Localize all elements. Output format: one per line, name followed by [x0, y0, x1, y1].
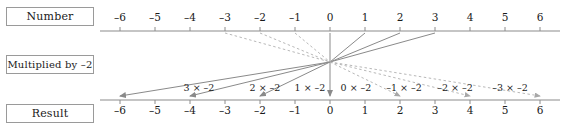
tick-label-bottom--2: –2: [254, 104, 266, 116]
operation-label-1: 2 × –2: [250, 82, 281, 93]
tick-label-top--1: –1: [289, 11, 301, 23]
tick-label-bottom-6: 6: [537, 104, 544, 116]
ray-upper-2: [330, 33, 400, 62]
tick-label-top--2: –2: [254, 11, 266, 23]
number-line-diagram: Number Multiplied by –2 Result –6–5–4–3–…: [0, 0, 566, 131]
ray-upper--2: [260, 33, 330, 62]
operation-label-5: –2 × –2: [437, 82, 473, 93]
ray-upper--3: [225, 33, 330, 62]
tick-label-bottom--6: –6: [114, 104, 126, 116]
diagram-canvas: [0, 0, 566, 131]
tick-label-top-6: 6: [537, 11, 544, 23]
tick-label-bottom--1: –1: [289, 104, 301, 116]
tick-label-top--4: –4: [184, 11, 196, 23]
tick-label-bottom-4: 4: [467, 104, 474, 116]
ray-upper-3: [330, 33, 435, 62]
tick-label-top--3: –3: [219, 11, 231, 23]
tick-label-bottom--3: –3: [219, 104, 231, 116]
tick-label-bottom--5: –5: [149, 104, 161, 116]
operation-label-2: 1 × –2: [295, 82, 326, 93]
tick-label-top--6: –6: [114, 11, 126, 23]
ray-upper--1: [295, 33, 330, 62]
tick-label-bottom-3: 3: [432, 104, 439, 116]
tick-label-top-2: 2: [397, 11, 404, 23]
tick-label-bottom-2: 2: [397, 104, 404, 116]
tick-label-top-3: 3: [432, 11, 439, 23]
tick-label-bottom-5: 5: [502, 104, 509, 116]
tick-label-bottom--4: –4: [184, 104, 196, 116]
operation-label-3: 0 × –2: [341, 82, 372, 93]
tick-label-top-0: 0: [327, 11, 334, 23]
tick-label-top-1: 1: [362, 11, 369, 23]
tick-label-bottom-0: 0: [327, 104, 334, 116]
tick-label-top-4: 4: [467, 11, 474, 23]
operation-label-6: –3 × –2: [492, 82, 528, 93]
tick-label-top-5: 5: [502, 11, 509, 23]
tick-label-bottom-1: 1: [362, 104, 369, 116]
operation-label-4: –1 × –2: [386, 82, 422, 93]
operation-label-0: 3 × –2: [184, 82, 215, 93]
tick-label-top--5: –5: [149, 11, 161, 23]
